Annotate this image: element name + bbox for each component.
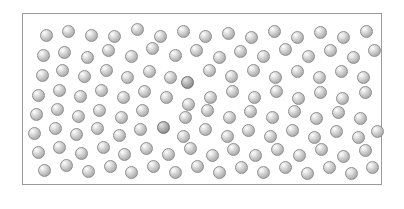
particle [222,27,235,40]
particle [279,43,292,56]
particle [368,44,381,57]
particle [313,71,326,84]
particle [199,30,212,43]
particle [242,124,255,137]
particle [227,143,240,156]
particle [182,98,195,111]
particle [184,142,197,155]
marked-particle [157,121,170,134]
particle [191,160,204,173]
particle [75,147,88,160]
particle [203,64,216,77]
particle [160,91,173,104]
particle [199,123,212,136]
particle [366,161,379,174]
particle [302,50,315,63]
particle [115,111,128,124]
particle [244,105,257,118]
particle [169,49,182,62]
particle [293,149,306,162]
particle [352,131,365,144]
particle [32,146,45,159]
particle [72,110,85,123]
particle [140,142,153,155]
particle [177,25,190,38]
particle [266,111,279,124]
particle [336,92,349,105]
particle [337,150,350,163]
particle [37,49,50,62]
particle [330,125,343,138]
particle [345,167,358,180]
figure-canvas [0,0,404,209]
particle [30,108,43,121]
particle [190,44,203,57]
particle [279,161,292,174]
particle [213,51,226,64]
particle [301,167,314,180]
particle [138,85,151,98]
particle [56,64,69,77]
particle [58,46,71,59]
particle [359,144,372,157]
particle [97,141,110,154]
particle [247,64,260,77]
particle [323,161,336,174]
particle [314,26,327,39]
particle [201,104,214,117]
particle [310,112,323,125]
particle [371,125,384,138]
particle [314,86,327,99]
particle [136,104,149,117]
particle [291,31,304,44]
particle [268,25,281,38]
particle [291,65,304,78]
particle [248,91,261,104]
particle [179,111,192,124]
particle [347,51,360,64]
particle [288,105,301,118]
marked-particle [181,76,194,89]
particle [249,149,262,162]
particle [82,165,95,178]
particle [60,159,73,172]
particle [292,92,305,105]
particle [78,70,91,83]
particle [32,89,45,102]
particle [62,25,75,38]
particle [49,122,62,135]
particle [354,112,367,125]
particle [162,148,175,161]
particle [53,84,66,97]
particle [104,160,117,173]
particle [213,166,226,179]
particle [225,70,238,83]
particle [357,71,370,84]
particle [40,29,53,42]
particle [359,86,372,99]
particle [53,141,66,154]
particle [315,143,328,156]
particle [38,164,51,177]
particle [117,91,130,104]
particle [51,103,64,116]
particle [146,42,159,55]
particle [270,85,283,98]
particle [131,23,144,36]
particle [308,131,321,144]
particle [337,31,350,44]
particle [206,149,219,162]
particle [177,130,190,143]
particle [143,65,156,78]
particle [95,84,108,97]
particle [324,44,337,57]
particle [28,127,41,140]
particle [154,30,167,43]
particle [269,71,282,84]
particle [257,166,270,179]
particle [147,160,160,173]
particle [271,143,284,156]
particle [134,123,147,136]
particle [36,69,49,82]
particle [226,85,239,98]
